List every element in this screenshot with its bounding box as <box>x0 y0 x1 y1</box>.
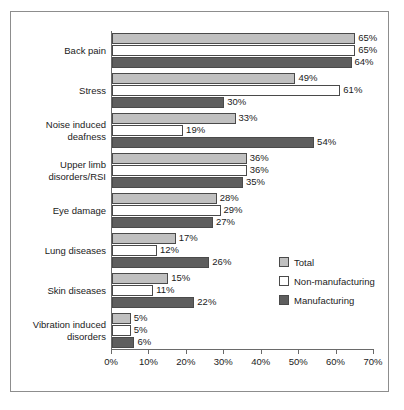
bar[interactable] <box>112 177 243 188</box>
x-axis-tick-label: 0% <box>91 356 131 367</box>
bar[interactable] <box>112 137 314 148</box>
bar-value-label: 12% <box>157 244 179 256</box>
x-axis-tick <box>223 350 224 354</box>
bar[interactable] <box>112 73 295 84</box>
bar-value-label: 65% <box>355 32 377 44</box>
category-label: Lung diseases <box>10 245 106 257</box>
x-axis-tick-label: 40% <box>241 356 281 367</box>
chart-legend: TotalNon-manufacturingManufacturing <box>279 254 375 311</box>
bar-value-label: 17% <box>176 232 198 244</box>
x-axis-tick <box>298 350 299 354</box>
category-label: Skin diseases <box>10 285 106 297</box>
x-axis-tick <box>111 350 112 354</box>
legend-label: Manufacturing <box>294 295 354 306</box>
legend-label: Total <box>294 257 314 268</box>
bar[interactable] <box>112 325 131 336</box>
legend-swatch-icon <box>279 295 289 305</box>
chart-frame: Back pain65%65%64%Stress49%61%30%Noise i… <box>10 11 389 392</box>
bar-value-label: 65% <box>355 44 377 56</box>
x-axis-tick <box>373 350 374 354</box>
legend-swatch-icon <box>279 276 289 286</box>
bar-value-label: 28% <box>217 192 239 204</box>
legend-item[interactable]: Manufacturing <box>279 292 375 308</box>
bar[interactable] <box>112 193 217 204</box>
category-label: Eye damage <box>10 205 106 217</box>
bar[interactable] <box>112 217 213 228</box>
bar[interactable] <box>112 125 183 136</box>
bar-value-label: 61% <box>340 84 362 96</box>
x-axis-tick <box>261 350 262 354</box>
x-axis-tick-label: 10% <box>128 356 168 367</box>
bar-value-label: 30% <box>224 96 246 108</box>
bar[interactable] <box>112 165 247 176</box>
bar-value-label: 27% <box>213 216 235 228</box>
bar-value-label: 26% <box>209 256 231 268</box>
bar-value-label: 22% <box>194 296 216 308</box>
category-label: Vibration induced disorders <box>10 319 106 342</box>
category-label: Back pain <box>10 45 106 57</box>
x-axis-tick-label: 50% <box>278 356 318 367</box>
x-axis-tick-label: 20% <box>166 356 206 367</box>
bar[interactable] <box>112 313 131 324</box>
bar-value-label: 36% <box>247 164 269 176</box>
x-axis-line <box>111 349 374 350</box>
bar[interactable] <box>112 205 221 216</box>
bar-value-label: 6% <box>134 336 151 348</box>
bar-value-label: 49% <box>295 72 317 84</box>
bar-value-label: 33% <box>236 112 258 124</box>
bar[interactable] <box>112 285 153 296</box>
category-label: Stress <box>10 85 106 97</box>
legend-label: Non-manufacturing <box>294 276 375 287</box>
bar-value-label: 54% <box>314 136 336 148</box>
bar[interactable] <box>112 45 355 56</box>
category-label: Noise induced deafness <box>10 119 106 142</box>
bar-value-label: 35% <box>243 176 265 188</box>
x-axis-tick <box>148 350 149 354</box>
category-label: Upper limb disorders/RSI <box>10 159 106 182</box>
x-axis-tick-label: 30% <box>203 356 243 367</box>
bar-value-label: 36% <box>247 152 269 164</box>
bar[interactable] <box>112 337 134 348</box>
bar[interactable] <box>112 113 236 124</box>
bar[interactable] <box>112 233 176 244</box>
bar-value-label: 11% <box>153 284 174 296</box>
bar-value-label: 29% <box>221 204 243 216</box>
bar[interactable] <box>112 153 247 164</box>
x-axis-tick <box>336 350 337 354</box>
bar-value-label: 5% <box>131 324 148 336</box>
bar[interactable] <box>112 257 209 268</box>
x-axis-tick-label: 70% <box>353 356 393 367</box>
bar[interactable] <box>112 245 157 256</box>
bar[interactable] <box>112 297 194 308</box>
bar[interactable] <box>112 33 355 44</box>
bar[interactable] <box>112 85 340 96</box>
bar-value-label: 64% <box>352 56 374 68</box>
bar-value-label: 15% <box>168 272 190 284</box>
bar-value-label: 19% <box>183 124 205 136</box>
x-axis-tick-label: 60% <box>316 356 356 367</box>
legend-item[interactable]: Total <box>279 254 375 270</box>
bar[interactable] <box>112 97 224 108</box>
bar[interactable] <box>112 57 352 68</box>
bar-value-label: 5% <box>131 312 148 324</box>
legend-item[interactable]: Non-manufacturing <box>279 273 375 289</box>
legend-swatch-icon <box>279 257 289 267</box>
x-axis-tick <box>186 350 187 354</box>
bar[interactable] <box>112 273 168 284</box>
